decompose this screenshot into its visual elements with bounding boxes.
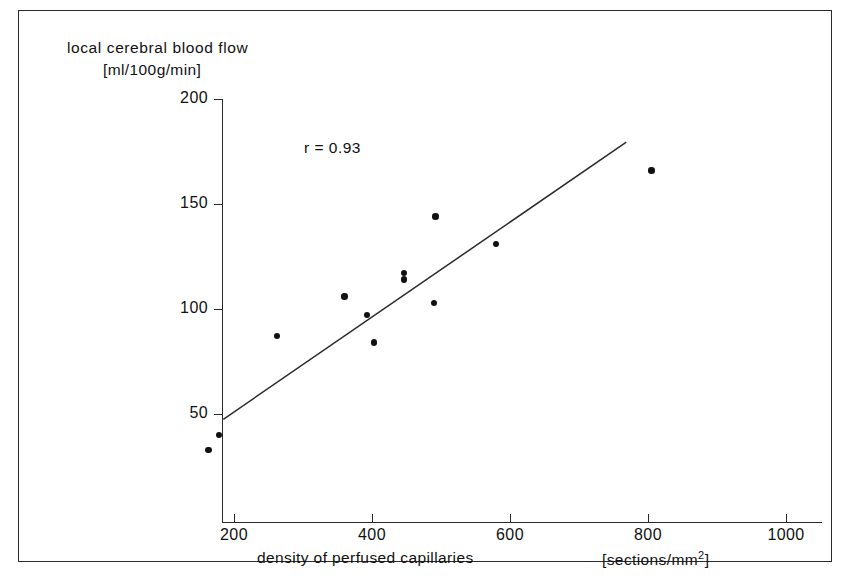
data-point: [274, 333, 280, 339]
data-point: [205, 447, 211, 453]
x-units-base: [sections/mm: [602, 551, 698, 568]
y-axis-tick-label: 200: [148, 89, 208, 107]
x-axis-tick-label: 1000: [751, 526, 821, 544]
data-point: [431, 300, 437, 306]
y-axis-tick: [214, 309, 222, 310]
y-axis-line: [222, 99, 223, 523]
data-point: [371, 339, 377, 345]
x-axis-tick: [510, 514, 511, 522]
y-axis-tick-label: 100: [148, 299, 208, 317]
figure-container: local cerebral blood flow [ml/100g/min] …: [0, 0, 850, 583]
data-point: [648, 167, 654, 173]
y-axis-tick: [214, 414, 222, 415]
x-axis-tick: [648, 514, 649, 522]
x-axis-tick-label: 800: [613, 526, 683, 544]
data-point: [341, 293, 347, 299]
y-axis-tick-label: 150: [148, 194, 208, 212]
x-axis-tick: [372, 514, 373, 522]
x-axis-tick: [786, 514, 787, 522]
data-point: [364, 312, 370, 318]
data-point: [432, 213, 438, 219]
correlation-annotation: r = 0.93: [304, 139, 361, 157]
y-axis-title-text: local cerebral blood flow: [67, 37, 248, 59]
y-axis-tick: [214, 99, 222, 100]
x-axis-title-text: density of perfused capillaries: [257, 549, 474, 567]
x-axis-line: [222, 522, 822, 523]
x-axis-title-units: [sections/mm2]: [602, 549, 709, 569]
figure-frame: local cerebral blood flow [ml/100g/min] …: [18, 10, 832, 562]
x-units-close: ]: [705, 551, 710, 568]
y-axis-tick: [214, 204, 222, 205]
y-axis-tick-label: 50: [148, 404, 208, 422]
x-axis-tick: [234, 514, 235, 522]
x-axis-tick-label: 600: [475, 526, 545, 544]
y-axis-title: local cerebral blood flow [ml/100g/min]: [67, 37, 248, 82]
x-axis-tick-label: 200: [199, 526, 269, 544]
data-point: [493, 241, 499, 247]
y-axis-title-units: [ml/100g/min]: [103, 59, 248, 81]
data-point: [401, 276, 407, 282]
x-axis-tick-label: 400: [337, 526, 407, 544]
